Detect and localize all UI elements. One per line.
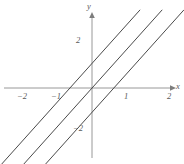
y-axis-arrowhead [89,12,95,18]
x-tick-label-neg2: −2 [17,92,27,101]
x-tick-label-pos2: 2 [167,92,171,101]
x-axis-label: x [176,82,180,91]
graph-figure: x y −2 −1 1 2 2 −2 [0,0,184,164]
y-axis-label: y [87,2,91,11]
line-series-lower [43,10,183,164]
y-tick-label-neg2: −2 [73,124,83,133]
y-axis [89,12,95,158]
line-series-upper [0,10,140,164]
x-tick-label-neg1: −1 [51,92,61,101]
coordinate-plane-svg [0,0,184,164]
x-tick-label-pos1: 1 [124,92,128,101]
y-tick-label-pos2: 2 [76,36,80,45]
